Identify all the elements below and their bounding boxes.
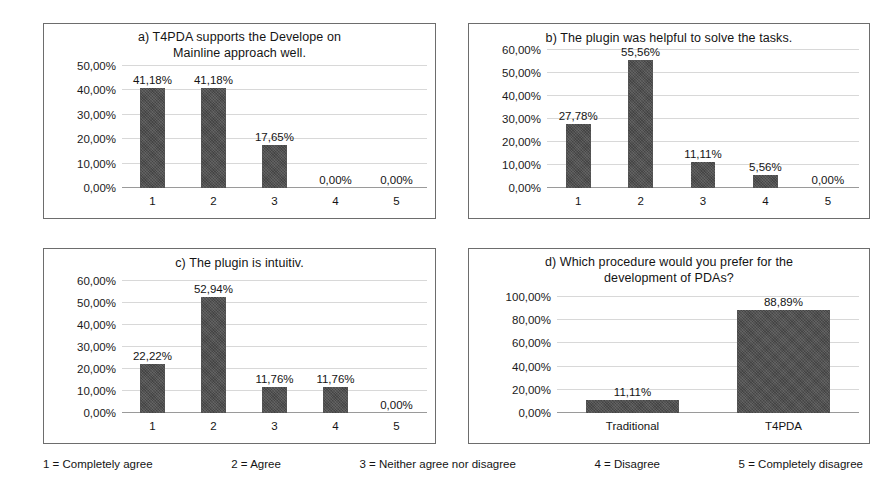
scale-legend: 1 = Completely agree2 = Agree3 = Neither… — [43, 458, 863, 470]
chart-panel-a: a) T4PDA supports the Develope on Mainli… — [43, 23, 436, 219]
y-axis-tick-label: 0,00% — [83, 182, 116, 194]
y-axis-tick-label: 100,00% — [506, 291, 551, 303]
x-axis-tick-label: 5 — [393, 195, 399, 207]
x-axis-tick-label: 3 — [271, 195, 277, 207]
y-axis-tick-label: 20,00% — [502, 136, 541, 148]
x-axis-tick-label: T4PDA — [765, 420, 802, 432]
y-axis-tick-label: 60,00% — [502, 44, 541, 56]
bar-value-label: 11,11% — [614, 386, 651, 398]
y-axis-tick-label: 40,00% — [502, 90, 541, 102]
x-axis-tick-label: 1 — [575, 195, 581, 207]
y-axis-tick-label: 20,00% — [512, 384, 551, 396]
bar-slot: 17,65%3 — [244, 66, 305, 188]
x-axis-tick-label: 2 — [210, 195, 216, 207]
chart-panel-d: d) Which procedure would you prefer for … — [468, 248, 870, 444]
plot-area-d: 0,00%20,00%40,00%60,00%80,00%100,00% 11,… — [557, 297, 859, 413]
bar-slot: 22,22%1 — [122, 281, 183, 413]
bar-slot: 5,56%4 — [734, 50, 796, 188]
bar-group-c: 22,22%152,94%211,76%311,76%40,00%5 — [122, 281, 427, 413]
bar: 88,89% — [737, 310, 831, 413]
bar-slot: 0,00%4 — [305, 66, 366, 188]
y-axis-tick-label: 10,00% — [502, 159, 541, 171]
y-axis-tick-label: 30,00% — [77, 341, 116, 353]
plot-area-a: 0,00%10,00%20,00%30,00%40,00%50,00% 41,1… — [122, 66, 427, 188]
y-axis-tick-label: 40,00% — [77, 319, 116, 331]
bar: 11,11% — [586, 400, 680, 413]
bar-group-b: 27,78%155,56%211,11%35,56%40,00%5 — [547, 50, 859, 188]
x-axis-tick-label: 5 — [825, 195, 831, 207]
bar-value-label: 55,56% — [621, 46, 660, 58]
y-axis-tick-label: 20,00% — [77, 133, 116, 145]
x-axis-tick-label: 4 — [762, 195, 768, 207]
chart-title-d-line2: development of PDAs? — [469, 270, 869, 286]
bar-value-label: 52,94% — [194, 283, 233, 295]
bar-value-label: 11,11% — [684, 148, 721, 160]
bar: 22,22% — [140, 364, 164, 413]
x-axis-tick-label: 4 — [332, 195, 338, 207]
bar: 17,65% — [262, 145, 286, 188]
y-axis-tick-label: 40,00% — [512, 361, 551, 373]
bar-slot: 0,00%5 — [797, 50, 859, 188]
legend-item: 1 = Completely agree — [43, 458, 153, 470]
chart-panel-c: c) The plugin is intuitiv. 0,00%10,00%20… — [43, 248, 436, 444]
x-axis-tick-label: 1 — [149, 195, 155, 207]
x-axis-tick-label: 3 — [700, 195, 706, 207]
legend-item: 3 = Neither agree nor disagree — [359, 458, 515, 470]
bar-value-label: 0,00% — [380, 174, 413, 186]
bar: 11,11% — [691, 162, 716, 188]
bar-slot: 11,76%4 — [305, 281, 366, 413]
y-axis-tick-label: 80,00% — [512, 314, 551, 326]
bar-value-label: 17,65% — [255, 131, 294, 143]
bar-group-d: 11,11%Traditional88,89%T4PDA — [557, 297, 859, 413]
chart-title-a-line2: Mainline approach well. — [44, 45, 435, 61]
bar-value-label: 88,89% — [764, 296, 803, 308]
bar-slot: 11,11%3 — [672, 50, 734, 188]
x-axis-tick-label: Traditional — [606, 420, 659, 432]
bar-slot: 27,78%1 — [547, 50, 609, 188]
bar-value-label: 22,22% — [133, 350, 172, 362]
legend-item: 2 = Agree — [231, 458, 281, 470]
plot-area-c: 0,00%10,00%20,00%30,00%40,00%50,00%60,00… — [122, 281, 427, 413]
bar: 5,56% — [753, 175, 778, 188]
bar-value-label: 0,00% — [319, 174, 352, 186]
bar: 52,94% — [201, 297, 225, 413]
legend-item: 4 = Disagree — [594, 458, 660, 470]
y-axis-tick-label: 10,00% — [77, 385, 116, 397]
bar-value-label: 11,76% — [255, 373, 293, 385]
y-axis-tick-label: 0,00% — [508, 182, 541, 194]
bar: 11,76% — [323, 387, 347, 413]
bar-slot: 52,94%2 — [183, 281, 244, 413]
bar-slot: 88,89%T4PDA — [708, 297, 859, 413]
x-axis-tick-label: 2 — [210, 420, 216, 432]
x-axis-tick-label: 1 — [149, 420, 155, 432]
chart-title-c: c) The plugin is intuitiv. — [44, 255, 435, 271]
y-axis-tick-label: 50,00% — [502, 67, 541, 79]
bar-value-label: 5,56% — [749, 161, 782, 173]
bar: 41,18% — [201, 88, 225, 188]
bar: 55,56% — [628, 60, 653, 188]
x-axis-tick-label: 4 — [332, 420, 338, 432]
bar-slot: 11,11%Traditional — [557, 297, 708, 413]
bar-value-label: 0,00% — [380, 399, 413, 411]
y-axis-tick-label: 20,00% — [77, 363, 116, 375]
bar-slot: 0,00%5 — [366, 66, 427, 188]
x-axis-tick-label: 3 — [271, 420, 277, 432]
x-axis-tick-label: 5 — [393, 420, 399, 432]
survey-figure: a) T4PDA supports the Develope on Mainli… — [0, 0, 894, 497]
y-axis-tick-label: 60,00% — [77, 275, 116, 287]
chart-title-a: a) T4PDA supports the Develope on Mainli… — [44, 29, 435, 61]
bar-slot: 55,56%2 — [609, 50, 671, 188]
y-axis-tick-label: 40,00% — [77, 84, 116, 96]
bar-slot: 41,18%1 — [122, 66, 183, 188]
bar-group-a: 41,18%141,18%217,65%30,00%40,00%5 — [122, 66, 427, 188]
chart-title-c-line1: c) The plugin is intuitiv. — [44, 255, 435, 271]
bar-value-label: 41,18% — [194, 74, 233, 86]
bar: 27,78% — [566, 124, 591, 188]
chart-panel-b: b) The plugin was helpful to solve the t… — [468, 23, 870, 219]
x-axis-tick-label: 2 — [637, 195, 643, 207]
bar-slot: 11,76%3 — [244, 281, 305, 413]
bar-value-label: 27,78% — [559, 110, 598, 122]
bar-slot: 0,00%5 — [366, 281, 427, 413]
legend-item: 5 = Completely disagree — [739, 458, 863, 470]
y-axis-tick-label: 60,00% — [512, 337, 551, 349]
